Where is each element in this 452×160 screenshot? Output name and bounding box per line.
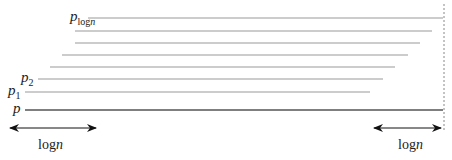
label-p: p <box>13 101 21 116</box>
left-span-label: logn <box>38 138 63 152</box>
right-span-label: logn <box>398 138 423 152</box>
diagram-canvas <box>0 0 452 160</box>
label-p1: p1 <box>8 83 21 101</box>
label-p2: p2 <box>21 70 34 88</box>
level-lines <box>25 18 443 92</box>
label-p-logn: plogn <box>70 9 95 27</box>
